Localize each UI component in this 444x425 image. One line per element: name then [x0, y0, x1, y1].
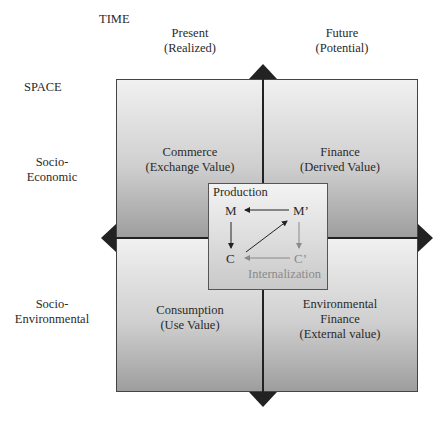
quadrant-label-environmental-finance: Environmental Finance (External value): [280, 297, 400, 342]
column-header-future: Future (Potential): [302, 26, 382, 56]
quadrant-label-consumption: Consumption (Use Value): [130, 303, 250, 333]
consumption-title: Consumption: [130, 303, 250, 318]
consumption-subtitle: (Use Value): [130, 318, 250, 333]
column-header-present-line2: (Realized): [150, 41, 230, 56]
row-header-socio-economic-line2: Economic: [12, 170, 92, 185]
environmental-finance-line3: (External value): [280, 327, 400, 342]
space-axis-label: SPACE: [24, 80, 62, 95]
row-header-socio-economic: Socio- Economic: [12, 155, 92, 185]
axis-arrow-bottom-icon: [249, 392, 277, 407]
axis-arrow-top-icon: [249, 64, 277, 79]
row-header-socio-environmental-line2: Environmental: [6, 312, 98, 327]
quadrant-label-finance: Finance (Derived Value): [280, 145, 400, 175]
quadrant-label-commerce: Commerce (Exchange Value): [130, 145, 250, 175]
axis-arrow-right-icon: [418, 224, 433, 252]
column-header-present-line1: Present: [150, 26, 230, 41]
column-header-present: Present (Realized): [150, 26, 230, 56]
finance-title: Finance: [280, 145, 400, 160]
arrow-c-to-mprime-icon: [246, 221, 287, 252]
finance-subtitle: (Derived Value): [280, 160, 400, 175]
row-header-socio-economic-line1: Socio-: [12, 155, 92, 170]
environmental-finance-line1: Environmental: [280, 297, 400, 312]
row-header-socio-environmental-line1: Socio-: [6, 297, 98, 312]
row-header-socio-environmental: Socio- Environmental: [6, 297, 98, 327]
column-header-future-line2: (Potential): [302, 41, 382, 56]
production-cycle-arrows: [209, 184, 329, 291]
time-axis-label: TIME: [99, 12, 130, 27]
axis-arrow-left-icon: [101, 224, 116, 252]
commerce-title: Commerce: [130, 145, 250, 160]
production-box: Production M M’ C C’ Internalization: [208, 183, 328, 290]
column-header-future-line1: Future: [302, 26, 382, 41]
commerce-subtitle: (Exchange Value): [130, 160, 250, 175]
environmental-finance-line2: Finance: [280, 312, 400, 327]
